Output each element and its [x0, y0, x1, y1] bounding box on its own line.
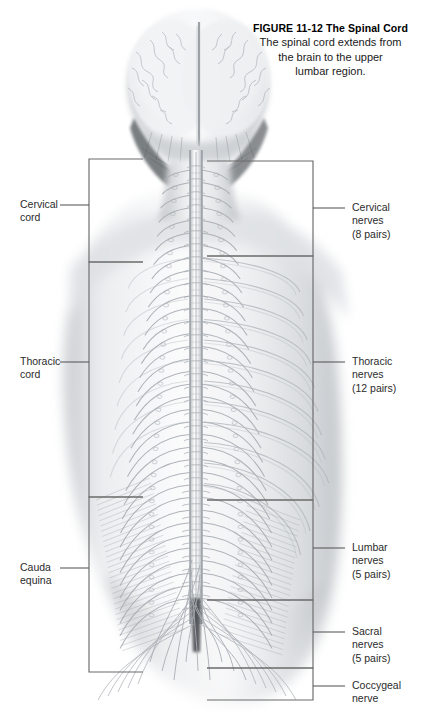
label-cauda-equina-line-1: Cauda [20, 561, 52, 574]
label-thoracic-nerves-line-1: Thoracic [352, 355, 396, 368]
label-cervical-cord-line-1: Cervical [20, 198, 58, 211]
label-thoracic-cord-line-2: cord [20, 368, 60, 381]
label-lumbar-nerves-line-3: (5 pairs) [352, 568, 391, 581]
label-cauda-equina-line-2: equina [20, 574, 52, 587]
label-cervical-nerves-line-3: (8 pairs) [352, 228, 391, 241]
figure-title: FIGURE 11-12 The Spinal Cord [238, 21, 423, 35]
label-thoracic-cord: Thoracic cord [20, 355, 60, 382]
label-sacral-nerves-line-2: nerves [352, 638, 391, 651]
label-lumbar-nerves-line-1: Lumbar [352, 541, 391, 554]
label-thoracic-nerves-line-3: (12 pairs) [352, 382, 396, 395]
label-thoracic-nerves: Thoracic nerves (12 pairs) [352, 355, 396, 395]
label-thoracic-nerves-line-2: nerves [352, 368, 396, 381]
label-sacral-nerves-line-1: Sacral [352, 625, 391, 638]
label-cervical-nerves-line-2: nerves [352, 214, 391, 227]
label-cervical-cord: Cervical cord [20, 198, 58, 225]
label-cervical-cord-line-2: cord [20, 211, 58, 224]
label-lumbar-nerves: Lumbar nerves (5 pairs) [352, 541, 391, 581]
label-cervical-nerves-line-1: Cervical [352, 201, 391, 214]
label-thoracic-cord-line-1: Thoracic [20, 355, 60, 368]
label-sacral-nerves-line-3: (5 pairs) [352, 652, 391, 665]
figure-caption-line-2: the brain to the upper [238, 50, 423, 65]
label-cauda-equina: Cauda equina [20, 561, 52, 588]
label-lumbar-nerves-line-2: nerves [352, 554, 391, 567]
figure-caption-line-3: lumbar region. [238, 64, 423, 79]
label-coccygeal-nerve-line-1: Coccygeal [352, 679, 401, 692]
figure-caption-block: FIGURE 11-12 The Spinal Cord The spinal … [238, 21, 423, 79]
label-coccygeal-nerve: Coccygeal nerve [352, 679, 401, 706]
label-sacral-nerves: Sacral nerves (5 pairs) [352, 625, 391, 665]
label-coccygeal-nerve-line-2: nerve [352, 692, 401, 705]
figure-caption-line-1: The spinal cord extends from [238, 35, 423, 50]
label-cervical-nerves: Cervical nerves (8 pairs) [352, 201, 391, 241]
